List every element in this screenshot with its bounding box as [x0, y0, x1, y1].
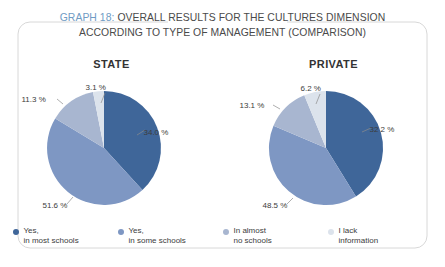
pie-label-private-lack-information: 6.2 %	[301, 84, 321, 93]
legend-label-some-schools: Yes,in some schools	[129, 226, 186, 246]
chart-legend: Yes,in most schools Yes,in some schools …	[0, 226, 445, 258]
pie-label-state-no-schools: 11.3 %	[22, 95, 46, 104]
legend-dot-icon-lack-information	[328, 229, 334, 235]
legend-dot-icon-no-schools	[223, 229, 229, 235]
legend-label-no-schools-line2: no schools	[234, 236, 272, 246]
pie-label-state-some-schools: 51.6 %	[43, 201, 68, 210]
pie-label-state-lack-information: 3.1 %	[86, 83, 106, 92]
legend-label-lack-information-line2: information	[339, 236, 379, 246]
pie-label-private-some-schools: 48.5 %	[263, 201, 288, 210]
chart-title-private: PRIVATE	[223, 58, 445, 70]
legend-label-most-schools-line1: Yes,	[24, 226, 39, 235]
legend-dot-icon-some-schools	[118, 229, 124, 235]
pie-chart-private	[223, 78, 445, 218]
pie-label-private-most-schools: 32 2 %	[370, 125, 395, 134]
legend-label-lack-information-line1: I lack	[339, 226, 358, 235]
legend-label-no-schools-line1: In almost	[234, 226, 266, 235]
legend-label-most-schools-line2: in most schools	[24, 236, 79, 246]
legend-label-no-schools: In almostno schools	[234, 226, 272, 246]
legend-item-most-schools: Yes,in most schools	[13, 226, 118, 246]
chart-title-state: STATE	[1, 58, 223, 70]
pie-label-state-most-schools: 34.0 %	[144, 128, 169, 137]
legend-label-some-schools-line1: Yes,	[129, 226, 144, 235]
legend-label-some-schools-line2: in some schools	[129, 236, 186, 246]
legend-item-lack-information: I lackinformation	[328, 226, 433, 246]
pie-holder-state: 34.0 % 51.6 % 11.3 % 3.1 %	[1, 78, 223, 218]
chart-panel-private: PRIVATE	[223, 58, 445, 218]
legend-label-lack-information: I lackinformation	[339, 226, 379, 246]
legend-label-most-schools: Yes,in most schools	[24, 226, 79, 246]
charts-container: STATE	[0, 58, 445, 218]
legend-item-no-schools: In almostno schools	[223, 226, 328, 246]
legend-dot-icon-most-schools	[13, 229, 19, 235]
legend-item-some-schools: Yes,in some schools	[118, 226, 223, 246]
pie-label-private-no-schools: 13.1 %	[240, 101, 265, 110]
chart-panel-state: STATE	[1, 58, 223, 218]
pie-holder-private: 32 2 % 48.5 % 13.1 % 6.2 %	[223, 78, 445, 218]
